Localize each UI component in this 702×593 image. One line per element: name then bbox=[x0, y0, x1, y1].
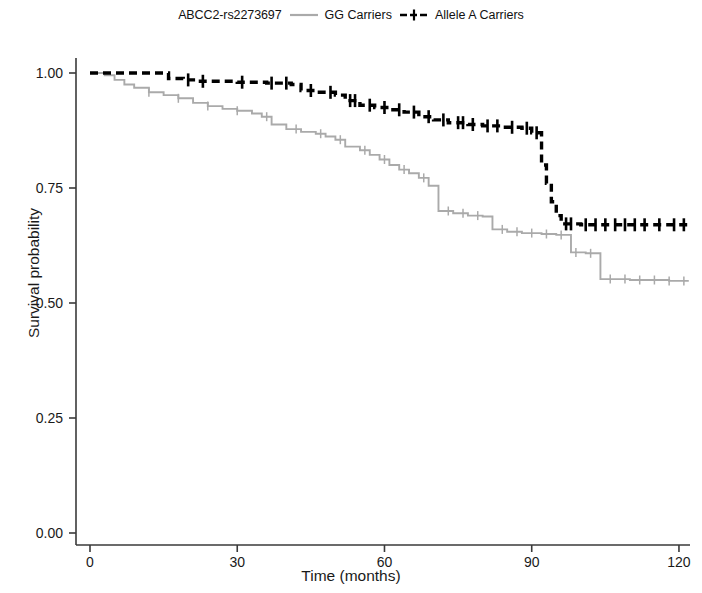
series-gg-carriers bbox=[90, 73, 689, 285]
survival-curve bbox=[90, 73, 689, 225]
series-allele-a-carriers bbox=[90, 73, 689, 231]
plot-area bbox=[0, 0, 702, 593]
survival-chart: ABCC2-rs2273697 GG Carriers Allele A Car… bbox=[0, 0, 702, 593]
survival-curve bbox=[90, 73, 689, 281]
